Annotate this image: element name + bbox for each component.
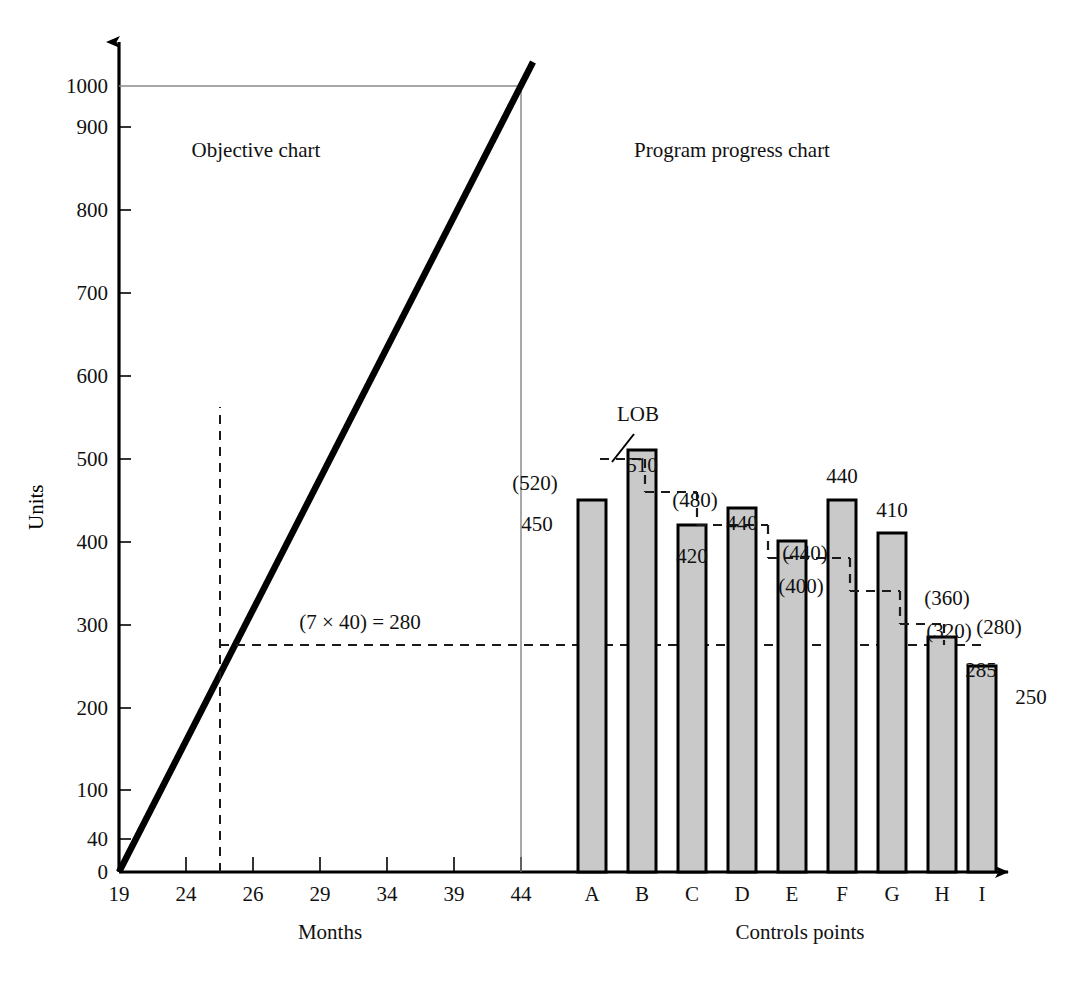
y-axis-title: Units bbox=[24, 484, 49, 530]
x-tick-marks-months bbox=[119, 857, 521, 872]
lob-value-label-520: (520) bbox=[494, 473, 576, 494]
x-tick-label-month-34: 34 bbox=[357, 884, 417, 905]
y-tick-label-600: 600 bbox=[30, 366, 108, 387]
bar-c[interactable] bbox=[678, 525, 706, 872]
x-tick-label-month-19: 19 bbox=[89, 884, 149, 905]
x-tick-label-month-26: 26 bbox=[223, 884, 283, 905]
y-tick-label-400: 400 bbox=[30, 532, 108, 553]
bar-value-label-b: 510 bbox=[611, 455, 673, 476]
bar-value-label-g: 410 bbox=[861, 500, 923, 521]
bar-b[interactable] bbox=[628, 450, 656, 872]
bar-value-label-h: 285 bbox=[950, 660, 1012, 681]
lob-label: LOB bbox=[608, 404, 668, 425]
y-tick-label-200: 200 bbox=[30, 698, 108, 719]
panel-title-objective-chart: Objective chart bbox=[136, 140, 376, 161]
bar-i[interactable] bbox=[968, 666, 996, 872]
bar-value-label-a: 450 bbox=[506, 514, 568, 535]
lob-value-label-440: (440) bbox=[764, 543, 846, 564]
x-tick-label-month-29: 29 bbox=[290, 884, 350, 905]
y-tick-label-300: 300 bbox=[30, 615, 108, 636]
y-tick-label-900: 900 bbox=[30, 117, 108, 138]
bar-g[interactable] bbox=[878, 533, 906, 872]
axes bbox=[119, 42, 1008, 872]
bar-a[interactable] bbox=[578, 500, 606, 872]
panel-title-program-progress-chart: Program progress chart bbox=[572, 140, 892, 161]
x-tick-label-point-i: I bbox=[952, 884, 1012, 905]
bar-d[interactable] bbox=[728, 508, 756, 872]
bar-value-label-c: 420 bbox=[661, 546, 723, 567]
lob-value-label-480: (480) bbox=[654, 490, 736, 511]
y-tick-label-0: 0 bbox=[30, 862, 108, 883]
chart-canvas: 1000 900 800 700 600 500 400 300 200 100… bbox=[0, 0, 1071, 985]
x-tick-label-month-44: 44 bbox=[491, 884, 551, 905]
lob-value-label-400: (400) bbox=[760, 576, 842, 597]
y-tick-label-100: 100 bbox=[30, 780, 108, 801]
bar-value-label-d: 440 bbox=[711, 513, 773, 534]
x-tick-label-month-39: 39 bbox=[424, 884, 484, 905]
bar-value-label-f: 440 bbox=[811, 466, 873, 487]
bar-series bbox=[578, 450, 996, 872]
bar-value-label-i: 250 bbox=[1000, 687, 1062, 708]
y-tick-label-40: 40 bbox=[30, 829, 108, 850]
y-tick-marks bbox=[119, 127, 131, 872]
lob-value-label-280: (280) bbox=[958, 617, 1040, 638]
lob-value-label-360: (360) bbox=[906, 588, 988, 609]
y-tick-label-700: 700 bbox=[30, 283, 108, 304]
y-tick-label-1000: 1000 bbox=[30, 76, 108, 97]
x-tick-label-month-24: 24 bbox=[156, 884, 216, 905]
y-tick-label-500: 500 bbox=[30, 449, 108, 470]
x-axis-title-months: Months bbox=[250, 922, 410, 943]
y-tick-label-800: 800 bbox=[30, 200, 108, 221]
objective-280-annotation: (7 × 40) = 280 bbox=[240, 612, 480, 633]
x-axis-title-control-points: Controls points bbox=[690, 922, 910, 943]
objective-progress-line bbox=[119, 62, 533, 872]
